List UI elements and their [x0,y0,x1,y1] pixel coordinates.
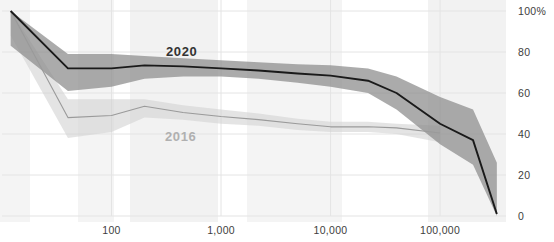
y-axis-tick-label: 80 [518,46,530,58]
x-axis-tick-label: 100 [102,224,120,236]
chart-container: 100%806040200 1001,00010,000100,000 2020… [0,0,554,242]
background-band [247,0,342,222]
y-axis-tick-label: 0 [518,210,524,222]
x-axis-tick-label: 100,000 [420,224,460,236]
y-axis-tick-label: 40 [518,128,530,140]
line-chart-plot [0,0,554,242]
series-label-2020: 2020 [166,44,197,59]
y-axis-tick-label: 20 [518,169,530,181]
y-axis-tick-label: 100% [518,5,546,17]
x-axis-tick-label: 1,000 [207,224,235,236]
x-axis-tick-label: 10,000 [314,224,348,236]
series-label-2016: 2016 [165,129,196,144]
y-axis-tick-label: 60 [518,87,530,99]
